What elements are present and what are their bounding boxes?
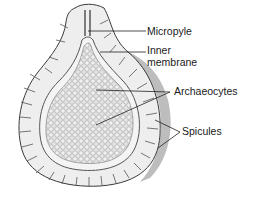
- label-spicules: Spicules: [182, 126, 222, 137]
- gemmule-diagram: [0, 0, 253, 199]
- label-archaeocytes: Archaeocytes: [174, 86, 238, 97]
- label-micropyle: Micropyle: [147, 26, 192, 37]
- label-inner-membrane-1: Inner: [147, 45, 171, 56]
- label-inner-membrane-2: membrane: [147, 57, 197, 68]
